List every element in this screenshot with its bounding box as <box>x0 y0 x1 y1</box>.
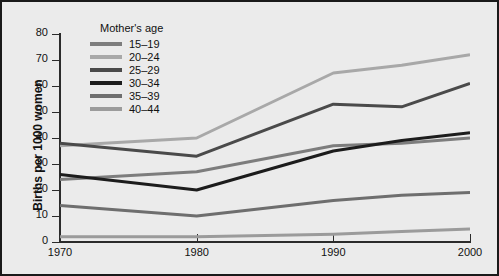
y-tick-label: 60 <box>36 78 48 90</box>
y-tick: 60 <box>52 86 60 87</box>
y-tick: 50 <box>52 112 60 113</box>
y-tick: 40 <box>52 138 60 139</box>
legend-item-label: 20–24 <box>129 51 160 63</box>
x-tick-label: 1990 <box>321 246 345 258</box>
legend-item-label: 35–39 <box>129 90 160 102</box>
legend-swatch-icon <box>90 81 122 85</box>
legend-item-15-19: 15–19 <box>90 37 163 50</box>
legend-item-label: 25–29 <box>129 64 160 76</box>
legend-swatch-icon <box>90 55 122 59</box>
legend-item-label: 15–19 <box>129 38 160 50</box>
y-tick-label: 30 <box>36 156 48 168</box>
legend-items: 15–1920–2425–2930–3435–3940–44 <box>90 37 163 115</box>
legend-item-35-39: 35–39 <box>90 89 163 102</box>
y-tick: 20 <box>52 190 60 191</box>
legend: Mother's age 15–1920–2425–2930–3435–3940… <box>90 22 163 115</box>
legend-swatch-icon <box>90 42 122 46</box>
y-tick-label: 20 <box>36 182 48 194</box>
legend-item-25-29: 25–29 <box>90 63 163 76</box>
x-tick-label: 1970 <box>48 246 72 258</box>
legend-item-label: 40–44 <box>129 103 160 115</box>
y-tick-label: 0 <box>42 234 48 246</box>
legend-item-label: 30–34 <box>129 77 160 89</box>
line-series-35-39 <box>60 193 470 216</box>
y-tick-label: 80 <box>36 26 48 38</box>
legend-swatch-icon <box>90 68 122 72</box>
legend-item-40-44: 40–44 <box>90 102 163 115</box>
legend-swatch-icon <box>90 94 122 98</box>
legend-title: Mother's age <box>90 22 163 34</box>
x-tick-label: 2000 <box>458 246 482 258</box>
y-tick-label: 10 <box>36 208 48 220</box>
y-tick: 10 <box>52 216 60 217</box>
y-tick: 30 <box>52 164 60 165</box>
y-tick-label: 40 <box>36 130 48 142</box>
chart-figure: Births per 1000 women 01020304050607080 … <box>0 0 499 276</box>
y-tick: 80 <box>52 34 60 35</box>
x-tick-label: 1980 <box>184 246 208 258</box>
legend-swatch-icon <box>90 107 122 111</box>
line-series-15-19 <box>60 138 470 180</box>
x-tick <box>470 234 471 242</box>
y-tick-label: 70 <box>36 52 48 64</box>
y-axis-title: Births per 1000 women <box>31 35 45 255</box>
y-tick: 0 <box>52 242 60 243</box>
y-tick: 70 <box>52 60 60 61</box>
legend-item-20-24: 20–24 <box>90 50 163 63</box>
line-series-40-44 <box>60 229 470 237</box>
legend-item-30-34: 30–34 <box>90 76 163 89</box>
y-tick-label: 50 <box>36 104 48 116</box>
